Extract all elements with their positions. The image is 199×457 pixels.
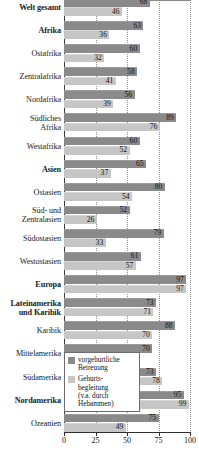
bar-row: Europa9797 bbox=[0, 273, 199, 296]
legend-item-prenatal: vorgeburtliche Betreuung bbox=[68, 356, 136, 372]
bar-value-label: 63 bbox=[133, 21, 141, 31]
bar-dark: 52 bbox=[64, 206, 190, 215]
bar-value-label: 70 bbox=[142, 344, 150, 354]
category-label: Westafrika bbox=[0, 142, 64, 151]
bar-light: 52 bbox=[64, 146, 190, 155]
category-label: Ostasien bbox=[0, 188, 64, 197]
bar-group: 5841 bbox=[64, 65, 190, 88]
x-tick-label-75: 75 bbox=[155, 436, 163, 445]
bar-fill bbox=[64, 113, 176, 122]
bar-value-label: 76 bbox=[150, 122, 158, 132]
bar-light: 57 bbox=[64, 261, 190, 270]
category-label: Südostasien bbox=[0, 234, 64, 243]
bar-row: Südliches Afrika8976 bbox=[0, 111, 199, 134]
bar-fill bbox=[64, 137, 140, 146]
bar-row: Nordafrika5639 bbox=[0, 88, 199, 111]
bar-fill bbox=[64, 285, 186, 294]
bar-group: 8870 bbox=[64, 319, 190, 342]
category-label: Europa bbox=[0, 280, 64, 289]
bar-row: Südostasien7933 bbox=[0, 227, 199, 250]
bar-row: Asien6537 bbox=[0, 158, 199, 181]
x-tick-0 bbox=[64, 432, 65, 436]
bar-row: Zentralafrika5841 bbox=[0, 65, 199, 88]
bar-value-label: 26 bbox=[87, 215, 95, 225]
bar-row: Ostafrika6032 bbox=[0, 42, 199, 65]
bar-value-label: 57 bbox=[126, 261, 134, 271]
bar-value-label: 58 bbox=[127, 67, 135, 77]
bar-fill bbox=[64, 160, 146, 169]
category-label: Karibik bbox=[0, 326, 64, 335]
bar-row: Afrika6336 bbox=[0, 19, 199, 42]
bar-dark: 56 bbox=[64, 90, 190, 99]
bar-value-label: 89 bbox=[166, 113, 174, 123]
bar-value-label: 52 bbox=[120, 145, 128, 155]
bar-dark: 58 bbox=[64, 67, 190, 76]
bar-value-label: 52 bbox=[120, 205, 128, 215]
bar-value-label: 41 bbox=[106, 76, 114, 86]
bar-light: 33 bbox=[64, 238, 190, 247]
bar-light: 41 bbox=[64, 77, 190, 86]
bar-dark: 61 bbox=[64, 252, 190, 261]
bar-dark: 75 bbox=[64, 414, 190, 423]
bar-group: 6846 bbox=[64, 0, 190, 19]
x-tick-label-0: 0 bbox=[62, 436, 66, 445]
category-label: Südliches Afrika bbox=[0, 114, 64, 132]
bar-row: Westostasien6157 bbox=[0, 250, 199, 273]
bar-value-label: 56 bbox=[125, 90, 133, 100]
bar-dark: 88 bbox=[64, 321, 190, 330]
bar-value-label: 75 bbox=[149, 413, 157, 423]
category-label: Südamerika bbox=[0, 373, 64, 382]
category-label: Ozeanien bbox=[0, 419, 64, 428]
legend-item-birth-attendance: Geburts- begleitung (v.a. durch Hebammen… bbox=[68, 375, 136, 408]
bar-value-label: 80 bbox=[155, 182, 163, 192]
bar-fill bbox=[64, 123, 160, 132]
bar-group: 6537 bbox=[64, 158, 190, 181]
category-label: Zentralafrika bbox=[0, 72, 64, 81]
bar-value-label: 61 bbox=[131, 251, 139, 261]
bar-group: 8976 bbox=[64, 111, 190, 134]
bar-value-label: 68 bbox=[140, 0, 148, 7]
bar-value-label: 60 bbox=[130, 44, 138, 54]
category-label: Mittelamerika bbox=[0, 349, 64, 358]
bar-value-label: 65 bbox=[136, 159, 144, 169]
bar-row: Westafrika6052 bbox=[0, 135, 199, 158]
bar-row: Karibik8870 bbox=[0, 319, 199, 342]
bar-value-label: 79 bbox=[154, 228, 162, 238]
bar-group: 6032 bbox=[64, 42, 190, 65]
bar-group: 6052 bbox=[64, 135, 190, 158]
bar-light: 26 bbox=[64, 215, 190, 224]
bar-row: Süd- und Zentralasien5226 bbox=[0, 204, 199, 227]
x-tick-100 bbox=[190, 432, 191, 436]
bar-value-label: 32 bbox=[94, 53, 102, 63]
bar-fill bbox=[64, 331, 152, 340]
bar-group: 6157 bbox=[64, 250, 190, 273]
x-tick-25 bbox=[96, 432, 97, 436]
bar-fill bbox=[64, 275, 186, 284]
bar-light: 46 bbox=[64, 7, 190, 16]
bar-value-label: 60 bbox=[130, 136, 138, 146]
category-label: Ostafrika bbox=[0, 49, 64, 58]
bar-light: 32 bbox=[64, 54, 190, 63]
bar-value-label: 73 bbox=[146, 367, 154, 377]
bar-fill bbox=[64, 414, 159, 423]
bar-value-label: 36 bbox=[99, 30, 107, 40]
category-label: Süd- und Zentralasien bbox=[0, 206, 64, 224]
bar-value-label: 46 bbox=[112, 7, 120, 17]
bar-dark: 63 bbox=[64, 21, 190, 30]
bar-row: Lateinamerika und Karibik7371 bbox=[0, 296, 199, 319]
bar-dark: 80 bbox=[64, 183, 190, 192]
bar-dark: 97 bbox=[64, 275, 190, 284]
bar-fill bbox=[64, 21, 143, 30]
bar-dark: 68 bbox=[64, 0, 190, 7]
bar-light: 36 bbox=[64, 30, 190, 39]
bar-value-label: 88 bbox=[165, 321, 173, 331]
bar-dark: 73 bbox=[64, 298, 190, 307]
legend-swatch-birth-attendance-icon bbox=[68, 376, 75, 383]
x-axis-tick-labels: 0255075100 bbox=[0, 436, 199, 448]
legend-swatch-prenatal-icon bbox=[68, 357, 75, 364]
bar-light: 76 bbox=[64, 123, 190, 132]
bar-light: 39 bbox=[64, 100, 190, 109]
category-label: Nordafrika bbox=[0, 95, 64, 104]
x-tick-75 bbox=[159, 432, 160, 436]
x-tick-label-25: 25 bbox=[92, 436, 100, 445]
